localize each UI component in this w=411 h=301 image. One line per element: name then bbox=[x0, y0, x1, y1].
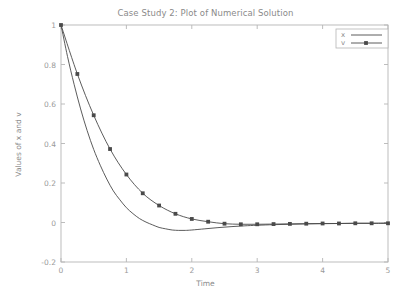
data-series bbox=[59, 23, 390, 230]
plot-frame bbox=[61, 25, 388, 262]
axis-ticks bbox=[61, 25, 388, 262]
chart-plot-area bbox=[0, 0, 411, 301]
chart-canvas: Case Study 2: Plot of Numerical Solution… bbox=[0, 0, 411, 301]
legend-entry-v: v bbox=[341, 39, 345, 47]
legend-entry-x: x bbox=[341, 31, 345, 39]
